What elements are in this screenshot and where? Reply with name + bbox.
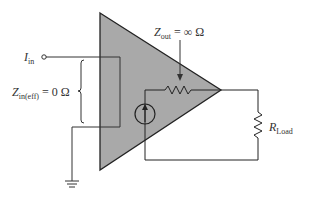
input-impedance-subscript: in(eff) [19,92,39,101]
input-terminal-icon [42,55,46,59]
load-resistor-subscript: Load [276,127,292,136]
current-amplifier-diagram: Iin Zin(eff) = 0 Ω Zout = ∞ Ω RLoad [0,0,309,199]
output-impedance-symbol: Z [154,25,161,39]
ground-icon [65,181,79,187]
input-impedance-symbol: Z [12,85,19,99]
input-current-label: Iin [24,51,34,63]
output-impedance-label: Zout = ∞ Ω [154,26,204,38]
input-current-subscript: in [28,57,34,66]
input-impedance-label: Zin(eff) = 0 Ω [12,86,70,98]
load-resistor-label: RLoad [269,121,293,133]
zout-arrow-icon [177,40,183,81]
input-impedance-value: = 0 Ω [42,85,70,99]
input-brace-icon [78,60,84,123]
load-resistor-icon [254,112,262,138]
output-impedance-subscript: out [161,32,171,41]
output-impedance-value: = ∞ Ω [174,25,204,39]
